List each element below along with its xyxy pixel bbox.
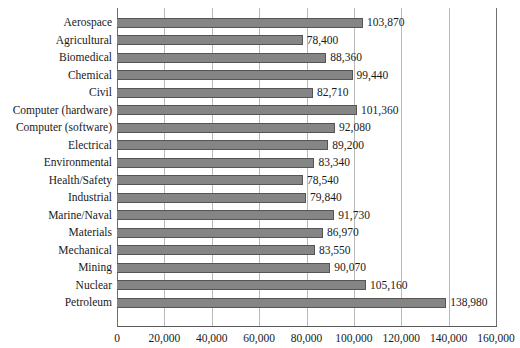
bar — [117, 70, 353, 80]
bar-value-label: 90,070 — [334, 259, 366, 277]
x-tick-label: 100,000 — [335, 329, 372, 348]
bar-row: Mining90,070 — [117, 259, 496, 277]
bar-row: Materials86,970 — [117, 224, 496, 242]
bar-row: Aerospace103,870 — [117, 14, 496, 32]
bar — [117, 210, 334, 220]
x-tick-label: 160,000 — [477, 329, 514, 348]
category-label: Health/Safety — [49, 172, 112, 190]
bar-value-label: 78,540 — [307, 172, 339, 190]
bar — [117, 105, 357, 115]
category-label: Environmental — [44, 154, 112, 172]
category-label: Materials — [69, 224, 112, 242]
bar-row: Nuclear105,160 — [117, 277, 496, 295]
bar-value-label: 138,980 — [450, 294, 487, 312]
category-label: Chemical — [68, 67, 112, 85]
bar-value-label: 101,360 — [361, 102, 398, 120]
category-label: Nuclear — [76, 277, 112, 295]
bar — [117, 123, 335, 133]
bar-value-label: 99,440 — [357, 67, 389, 85]
bar-value-label: 88,360 — [330, 49, 362, 67]
bar-row: Biomedical88,360 — [117, 49, 496, 67]
category-label: Agricultural — [56, 32, 112, 50]
x-tick-label: 120,000 — [383, 329, 420, 348]
bar — [117, 175, 303, 185]
x-tick-label: 20,000 — [149, 329, 181, 348]
x-tick-label: 40,000 — [196, 329, 228, 348]
bar-row: Computer (hardware)101,360 — [117, 102, 496, 120]
x-tick-label: 140,000 — [430, 329, 467, 348]
category-label: Aerospace — [63, 14, 112, 32]
bar-row: Computer (software)92,080 — [117, 119, 496, 137]
bar-value-label: 105,160 — [370, 277, 407, 295]
bar-row: Electrical89,200 — [117, 137, 496, 155]
bar-value-label: 103,870 — [367, 14, 404, 32]
bar-value-label: 86,970 — [327, 224, 359, 242]
bar-row: Health/Safety78,540 — [117, 172, 496, 190]
bar-row: Petroleum138,980 — [117, 294, 496, 312]
bar — [117, 88, 313, 98]
category-label: Electrical — [68, 137, 112, 155]
bar-chart: Aerospace103,870Agricultural78,400Biomed… — [0, 0, 520, 348]
bar-row: Civil82,710 — [117, 84, 496, 102]
x-tick-label: 0 — [114, 329, 120, 348]
bar-value-label: 91,730 — [338, 207, 370, 225]
bar-row: Industrial79,840 — [117, 189, 496, 207]
bar-value-label: 92,080 — [339, 119, 371, 137]
x-tick-label: 60,000 — [243, 329, 275, 348]
bar — [117, 228, 323, 238]
category-label: Mining — [78, 259, 112, 277]
bar-value-label: 78,400 — [307, 32, 339, 50]
bar-row: Environmental83,340 — [117, 154, 496, 172]
category-label: Civil — [89, 84, 112, 102]
bar-row: Agricultural78,400 — [117, 32, 496, 50]
bar — [117, 140, 328, 150]
category-label: Marine/Naval — [48, 207, 112, 225]
category-label: Industrial — [68, 189, 112, 207]
bar — [117, 193, 306, 203]
bar — [117, 280, 366, 290]
category-label: Biomedical — [59, 49, 112, 67]
bar-value-label: 83,340 — [318, 154, 350, 172]
bar — [117, 245, 315, 255]
bar — [117, 18, 363, 28]
bar — [117, 298, 446, 308]
bar-value-label: 89,200 — [332, 137, 364, 155]
bar-value-label: 79,840 — [310, 189, 342, 207]
category-label: Computer (software) — [16, 119, 112, 137]
plot-area: Aerospace103,870Agricultural78,400Biomed… — [117, 8, 496, 326]
category-label: Petroleum — [65, 294, 112, 312]
x-axis-line — [117, 326, 497, 327]
gridline-160000 — [496, 8, 497, 326]
bar-row: Mechanical83,550 — [117, 242, 496, 260]
bar-value-label: 83,550 — [319, 242, 351, 260]
category-label: Mechanical — [58, 242, 112, 260]
bar-row: Marine/Naval91,730 — [117, 207, 496, 225]
category-label: Computer (hardware) — [13, 102, 112, 120]
x-axis-tick-labels: 020,00040,00060,00080,000100,000120,0001… — [117, 329, 496, 348]
bar — [117, 53, 326, 63]
bar-value-label: 82,710 — [317, 84, 349, 102]
bar — [117, 35, 303, 45]
x-tick-label: 80,000 — [291, 329, 323, 348]
bar — [117, 158, 314, 168]
bar-row: Chemical99,440 — [117, 67, 496, 85]
bar — [117, 263, 330, 273]
